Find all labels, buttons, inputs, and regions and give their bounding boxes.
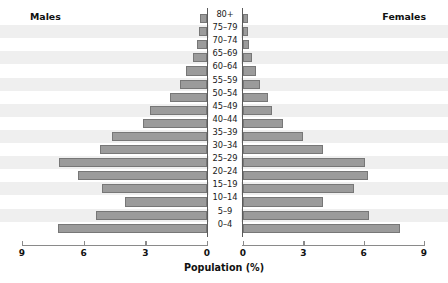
bar-female-35-39 xyxy=(243,132,303,141)
x-axis-tick-label-right-0: 0 xyxy=(231,248,255,258)
age-group-label: 55–59 xyxy=(209,74,241,87)
x-axis-tick-left-6 xyxy=(84,241,85,246)
bar-male-55-59 xyxy=(180,80,207,89)
bar-female-20-24 xyxy=(243,171,368,180)
bar-male-50-54 xyxy=(170,93,207,102)
females-panel-label: Females xyxy=(382,11,426,22)
bar-male-35-39 xyxy=(112,132,207,141)
bar-female-25-29 xyxy=(243,158,365,167)
age-group-label: 20–24 xyxy=(209,165,241,178)
bar-female-30-34 xyxy=(243,145,323,154)
bar-male-10-14 xyxy=(125,197,207,206)
age-group-label: 15–19 xyxy=(209,178,241,191)
bar-female-0-4 xyxy=(243,224,400,233)
age-group-label: 65–69 xyxy=(209,47,241,60)
bar-male-75-79 xyxy=(199,27,207,36)
bar-female-70-74 xyxy=(243,40,249,49)
bar-male-40-44 xyxy=(143,119,207,128)
age-group-label-column: 80+75–7970–7465–6960–6455–5950–5445–4940… xyxy=(209,8,241,237)
x-axis-tick-label-left-0: 0 xyxy=(195,248,219,258)
bar-female-5-9 xyxy=(243,211,369,220)
bar-male-80+ xyxy=(200,14,207,23)
bar-female-15-19 xyxy=(243,184,354,193)
bar-female-80+ xyxy=(243,14,248,23)
age-group-label: 60–64 xyxy=(209,60,241,73)
bar-male-20-24 xyxy=(78,171,208,180)
bar-male-15-19 xyxy=(102,184,207,193)
age-group-label: 25–29 xyxy=(209,152,241,165)
bar-male-30-34 xyxy=(100,145,207,154)
bar-male-65-69 xyxy=(193,53,207,62)
x-axis-tick-label-right-3: 3 xyxy=(291,248,315,258)
bar-female-65-69 xyxy=(243,53,252,62)
bar-male-5-9 xyxy=(96,211,207,220)
age-group-label: 80+ xyxy=(209,8,241,21)
age-group-label: 75–79 xyxy=(209,21,241,34)
x-axis-line-left xyxy=(22,245,208,246)
x-axis-title: Population (%) xyxy=(0,262,448,273)
x-axis-tick-left-0 xyxy=(207,241,208,246)
bar-male-70-74 xyxy=(197,40,207,49)
population-pyramid-chart: 80+75–7970–7465–6960–6455–5950–5445–4940… xyxy=(0,0,448,283)
zero-axis-rule-right xyxy=(242,8,243,237)
x-axis-tick-right-6 xyxy=(364,241,365,246)
bar-female-50-54 xyxy=(243,93,268,102)
bar-female-10-14 xyxy=(243,197,323,206)
bar-female-55-59 xyxy=(243,80,260,89)
x-axis-tick-label-left-9: 9 xyxy=(10,248,34,258)
x-axis-tick-label-right-6: 6 xyxy=(352,248,376,258)
bar-female-40-44 xyxy=(243,119,283,128)
age-group-label: 0–4 xyxy=(209,218,241,231)
age-group-label: 70–74 xyxy=(209,34,241,47)
age-group-label: 35–39 xyxy=(209,126,241,139)
age-group-label: 30–34 xyxy=(209,139,241,152)
x-axis-line-right xyxy=(242,245,425,246)
age-group-label: 50–54 xyxy=(209,87,241,100)
x-axis-tick-right-0 xyxy=(243,241,244,246)
males-panel-label: Males xyxy=(30,11,61,22)
age-group-label: 45–49 xyxy=(209,100,241,113)
bar-female-75-79 xyxy=(243,27,248,36)
x-axis-tick-right-9 xyxy=(424,241,425,246)
bar-male-25-29 xyxy=(59,158,207,167)
bar-female-60-64 xyxy=(243,66,256,75)
bar-male-45-49 xyxy=(150,106,207,115)
x-axis-tick-label-left-6: 6 xyxy=(72,248,96,258)
bar-male-0-4 xyxy=(58,224,207,233)
x-axis-tick-label-left-3: 3 xyxy=(133,248,157,258)
bar-male-60-64 xyxy=(186,66,207,75)
x-axis-tick-left-3 xyxy=(145,241,146,246)
x-axis-tick-left-9 xyxy=(22,241,23,246)
zero-axis-rule-left xyxy=(207,8,208,237)
age-group-label: 10–14 xyxy=(209,191,241,204)
x-axis-tick-label-right-9: 9 xyxy=(412,248,436,258)
bar-female-45-49 xyxy=(243,106,272,115)
age-group-label: 40–44 xyxy=(209,113,241,126)
age-group-label: 5–9 xyxy=(209,205,241,218)
x-axis-tick-right-3 xyxy=(303,241,304,246)
